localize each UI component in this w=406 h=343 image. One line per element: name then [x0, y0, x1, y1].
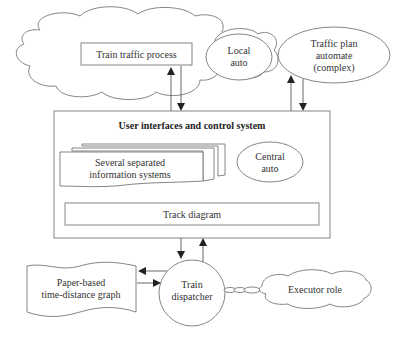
central-auto-node	[237, 142, 303, 182]
arrows-dispatcher	[177, 238, 207, 262]
chain-link-connector	[224, 287, 260, 293]
train-traffic-process-label: Train traffic process	[96, 49, 177, 60]
ui-control-system-title: User interfaces and control system	[119, 120, 266, 131]
traffic-plan-label-line3: (complex)	[313, 62, 354, 74]
info-systems-label-line2: information systems	[89, 169, 170, 180]
traffic-plan-label-line1: Traffic plan	[311, 38, 358, 49]
executor-role-node: Executor role	[259, 270, 371, 309]
info-systems-label-line1: Several separated	[95, 157, 165, 168]
train-dispatcher-node: Train dispatcher	[159, 260, 225, 326]
paper-graph-label-line1: Paper-based	[57, 277, 106, 288]
train-dispatcher-label-line2: dispatcher	[171, 291, 213, 302]
local-auto-label-line2: auto	[230, 57, 247, 68]
track-diagram-label: Track diagram	[163, 209, 221, 220]
train-dispatcher-label-line1: Train	[181, 279, 202, 290]
central-auto-label-line2: auto	[261, 163, 278, 174]
info-systems-node: Several separated information systems	[60, 144, 225, 187]
local-auto-label-line1: Local	[228, 45, 251, 56]
arrows-traffic-plan	[287, 75, 307, 111]
train-traffic-process-node: Train traffic process	[81, 43, 192, 65]
paper-graph-node: Paper-based time-distance graph	[27, 262, 136, 316]
diagram-canvas: Train traffic process Local auto Traffic…	[0, 0, 406, 343]
paper-graph-label-line2: time-distance graph	[41, 289, 120, 300]
central-auto-label-line1: Central	[255, 151, 285, 162]
traffic-plan-label-line2: automate	[316, 50, 353, 61]
ui-control-system-node: User interfaces and control system Sever…	[54, 111, 330, 238]
executor-role-label: Executor role	[288, 284, 343, 295]
